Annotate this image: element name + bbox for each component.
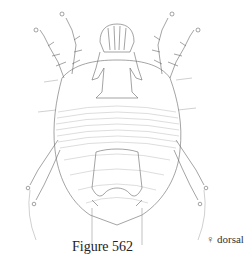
figure-caption: Figure 562 xyxy=(72,239,133,255)
figure-562 xyxy=(0,0,252,261)
mite-dorsal-drawing xyxy=(0,0,252,261)
view-label: ♀ dorsal xyxy=(206,233,244,245)
